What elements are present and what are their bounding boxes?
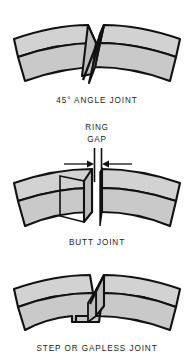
- butt-right-end-face: [100, 169, 102, 226]
- ring-gap-label-gap: GAP: [87, 135, 106, 144]
- piston-ring-joints-figure: 45° ANGLE JOINT RING GAP: [0, 0, 194, 363]
- ring-gap-label-ring: RING: [85, 123, 108, 132]
- butt-joint-caption: BUTT JOINT: [69, 238, 125, 247]
- angle-joint-caption: 45° ANGLE JOINT: [56, 96, 137, 105]
- step-joint-caption: STEP OR GAPLESS JOINT: [36, 344, 157, 353]
- joints-diagram: 45° ANGLE JOINT RING GAP: [0, 0, 194, 363]
